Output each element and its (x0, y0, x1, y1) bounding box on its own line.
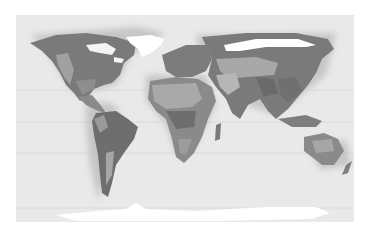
world-map (16, 15, 354, 222)
world-map-graphic (16, 15, 354, 222)
